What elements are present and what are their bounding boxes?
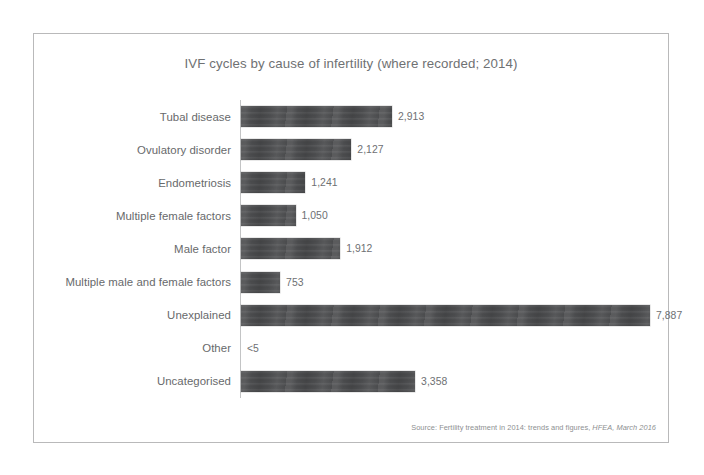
value-label: 2,127 [357, 144, 383, 155]
bar-track: 3,358 [240, 365, 662, 398]
category-label: Ovulatory disorder [42, 144, 240, 156]
category-label: Other [42, 342, 240, 354]
bar-track: 1,241 [240, 166, 662, 199]
bar-track: 2,913 [240, 100, 662, 133]
bar-row-male-factor: Male factor 1,912 [42, 232, 662, 265]
bar-track: 7,887 [240, 299, 682, 332]
bar-unexplained[interactable] [241, 305, 650, 326]
category-label: Male factor [42, 243, 240, 255]
source-note: Source: Fertility treatment in 2014: tre… [411, 423, 656, 432]
value-label: 1,912 [346, 243, 372, 254]
bar-row-multiple-female-factors: Multiple female factors 1,050 [42, 199, 662, 232]
value-label: 1,241 [311, 177, 337, 188]
bar-endometriosis[interactable] [241, 172, 305, 193]
category-label: Multiple female factors [42, 210, 240, 222]
source-citation: HFEA, March 2016 [592, 423, 656, 432]
source-prefix: Source: Fertility treatment in 2014: tre… [411, 423, 590, 432]
value-label: 7,887 [656, 310, 682, 321]
bar-uncategorised[interactable] [241, 371, 415, 392]
value-label: 2,913 [398, 111, 424, 122]
category-label: Unexplained [42, 309, 240, 321]
bar-row-unexplained: Unexplained 7,887 [42, 299, 662, 332]
bar-track: 2,127 [240, 133, 662, 166]
value-label: 3,358 [421, 376, 447, 387]
bar-tubal-disease[interactable] [241, 106, 392, 127]
bar-track: <5 [240, 332, 662, 365]
bar-row-endometriosis: Endometriosis 1,241 [42, 166, 662, 199]
bar-chart-plot-area: Tubal disease 2,913 Ovulatory disorder 2… [42, 100, 662, 400]
bar-ovulatory-disorder[interactable] [241, 139, 351, 160]
category-label: Tubal disease [42, 111, 240, 123]
chart-title: IVF cycles by cause of infertility (wher… [34, 56, 668, 71]
bar-row-tubal-disease: Tubal disease 2,913 [42, 100, 662, 133]
bar-track: 1,050 [240, 199, 662, 232]
value-label: 1,050 [302, 210, 328, 221]
category-label: Multiple male and female factors [42, 276, 240, 288]
screenshot-canvas: IVF cycles by cause of infertility (wher… [0, 0, 704, 475]
chart-figure: IVF cycles by cause of infertility (wher… [33, 33, 669, 443]
value-label: 753 [286, 277, 304, 288]
value-label: <5 [247, 343, 259, 354]
bar-row-multiple-male-and-female-factors: Multiple male and female factors 753 [42, 265, 662, 298]
bar-row-uncategorised: Uncategorised 3,358 [42, 365, 662, 398]
bar-male-factor[interactable] [241, 238, 340, 259]
bar-track: 1,912 [240, 232, 662, 265]
category-label: Endometriosis [42, 177, 240, 189]
bar-row-other: Other <5 [42, 332, 662, 365]
bar-row-ovulatory-disorder: Ovulatory disorder 2,127 [42, 133, 662, 166]
category-label: Uncategorised [42, 375, 240, 387]
bar-multiple-male-and-female-factors[interactable] [241, 272, 280, 293]
bar-track: 753 [240, 265, 662, 298]
bar-multiple-female-factors[interactable] [241, 205, 296, 226]
